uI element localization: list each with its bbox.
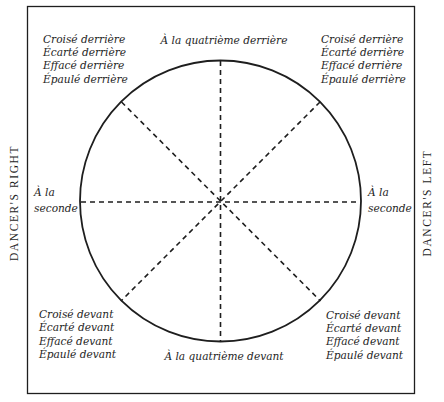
top-right-positions: Croisé derrière Écarté derrière Effacé d… (320, 33, 406, 85)
position-label: Épaulé devant (38, 347, 117, 360)
position-label: Effacé devant (325, 335, 400, 347)
seconde-left-label-line2: seconde (34, 202, 78, 214)
position-label: Effacé devant (38, 335, 113, 347)
position-label: Épaulé devant (325, 348, 404, 361)
quatrieme-derriere-label: À la quatrième derrière (160, 33, 288, 46)
seconde-left-label-line1: À la (33, 185, 55, 198)
quatrieme-devant-label: À la quatrième devant (163, 349, 284, 362)
position-label: Effacé derrière (320, 59, 402, 71)
ballet-directions-diagram: DANCER'S RIGHT DANCER'S LEFT À la quatri… (0, 0, 444, 402)
direction-lines (81, 61, 360, 341)
bottom-left-positions: Croisé devant Écarté devant Effacé devan… (38, 308, 117, 360)
position-label: Croisé devant (326, 309, 401, 321)
position-label: Écarté derrière (42, 45, 126, 58)
seconde-right-label-line2: seconde (368, 202, 412, 214)
bottom-right-positions: Croisé devant Écarté devant Effacé devan… (325, 309, 404, 361)
position-label: Croisé derrière (321, 33, 403, 45)
position-label: Épaulé derrière (42, 72, 128, 85)
position-label: Écarté devant (38, 320, 115, 333)
position-label: Épaulé derrière (320, 72, 406, 85)
top-left-positions: Croisé derrière Écarté derrière Effacé d… (42, 33, 128, 85)
position-label: Écarté devant (325, 321, 402, 334)
position-label: Écarté derrière (320, 45, 404, 58)
dancers-left-label: DANCER'S LEFT (421, 150, 433, 257)
dancers-right-label: DANCER'S RIGHT (8, 145, 20, 261)
position-label: Effacé derrière (42, 59, 124, 71)
position-label: Croisé derrière (43, 33, 125, 45)
seconde-right-label-line1: À la (367, 185, 389, 198)
position-label: Croisé devant (39, 308, 114, 320)
